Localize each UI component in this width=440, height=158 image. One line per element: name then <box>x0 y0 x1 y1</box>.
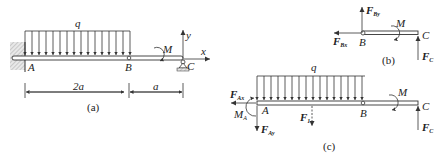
load-label-q: q <box>75 17 81 29</box>
hinge-b <box>361 101 365 105</box>
axis-label-y: y <box>185 29 191 41</box>
beam-diagram: q A B M y x C 2a a (a) <box>0 0 440 158</box>
force-ax-label: FAx <box>229 88 244 101</box>
moment-label-m: M <box>397 86 408 98</box>
dim-label-a: a <box>153 80 159 92</box>
force-c-label: FC <box>421 50 434 63</box>
resultant-force-label: F1 <box>299 111 310 124</box>
panel-a: q A B M y x C 2a a (a) <box>10 17 210 114</box>
force-bx-label: FBx <box>332 35 347 48</box>
force-c-label: FC <box>421 121 434 134</box>
distributed-load <box>257 76 365 100</box>
distributed-load <box>25 31 130 55</box>
moment-label-m: M <box>395 17 406 29</box>
point-label-c: C <box>187 60 195 72</box>
force-by-label: FBy <box>365 4 380 17</box>
axis-label-x: x <box>200 45 206 57</box>
moment-a-arrow <box>246 98 256 116</box>
caption-c: (c) <box>323 140 336 153</box>
beam-ac <box>257 101 418 105</box>
beam-bc <box>363 31 418 35</box>
dimension-lines <box>25 83 183 98</box>
moment-label-m: M <box>162 43 173 55</box>
force-ay-label: FAy <box>260 123 275 136</box>
point-label-b: B <box>125 61 132 73</box>
beam <box>12 56 183 60</box>
point-label-c: C <box>422 29 430 41</box>
point-label-b: B <box>359 36 366 48</box>
panel-b: FBy FBx B M C FC (b) <box>332 4 434 67</box>
point-label-a: A <box>261 104 269 116</box>
moment-a-label: MA <box>233 108 247 121</box>
point-label-a: A <box>27 61 35 73</box>
point-label-c: C <box>422 100 430 112</box>
dim-label-2a: 2a <box>73 80 85 92</box>
panel-c: q FAx MA A FAy F1 B M C FC (c) <box>229 61 434 153</box>
caption-b: (b) <box>382 54 395 67</box>
point-label-b: B <box>360 107 367 119</box>
load-label-q: q <box>311 61 317 73</box>
hinge-b <box>127 56 131 60</box>
caption-a: (a) <box>87 101 100 114</box>
